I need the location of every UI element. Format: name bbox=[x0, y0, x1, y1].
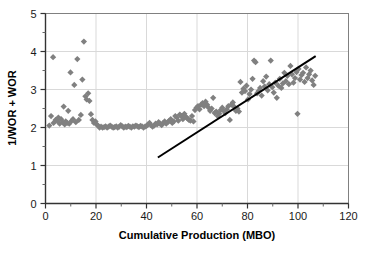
data-point-marker bbox=[249, 76, 255, 82]
data-point-marker bbox=[81, 38, 87, 44]
data-point-marker bbox=[65, 108, 71, 114]
data-point-marker bbox=[303, 64, 309, 70]
data-point-marker bbox=[74, 56, 80, 62]
data-point-marker bbox=[71, 82, 77, 88]
chart-figure: 020406080100120 012345 Cumulative Produc… bbox=[0, 0, 370, 253]
data-point-marker bbox=[61, 103, 67, 109]
y-axis-title: 1/WOR + WOR bbox=[6, 70, 18, 146]
data-point-marker bbox=[227, 117, 233, 123]
data-point-marker bbox=[210, 95, 216, 101]
x-tick-label: 80 bbox=[241, 210, 253, 222]
data-point-marker bbox=[268, 57, 274, 63]
data-point-marker bbox=[271, 89, 277, 95]
scatter-data-points bbox=[46, 38, 318, 130]
data-point-marker bbox=[294, 111, 300, 117]
data-point-marker bbox=[79, 76, 85, 82]
y-tick-label: 0 bbox=[30, 198, 36, 210]
y-tick-label: 3 bbox=[30, 84, 36, 96]
data-point-marker bbox=[274, 95, 280, 101]
data-point-marker bbox=[312, 73, 318, 79]
x-tick-label: 0 bbox=[42, 210, 48, 222]
data-point-marker bbox=[260, 78, 266, 84]
data-point-marker bbox=[263, 73, 269, 79]
y-axis-ticks bbox=[41, 14, 46, 204]
x-tick-label: 60 bbox=[191, 210, 203, 222]
y-axis-tick-labels: 012345 bbox=[30, 8, 36, 210]
x-tick-label: 120 bbox=[339, 210, 357, 222]
x-axis-title: Cumulative Production (MBO) bbox=[119, 229, 276, 241]
x-axis-ticks bbox=[46, 204, 349, 209]
x-tick-label: 20 bbox=[90, 210, 102, 222]
data-point-marker bbox=[237, 79, 243, 85]
y-tick-label: 5 bbox=[30, 8, 36, 20]
data-point-marker bbox=[287, 63, 293, 69]
trend-line-segment bbox=[158, 56, 316, 157]
y-tick-label: 4 bbox=[30, 46, 36, 58]
chart-canvas: 020406080100120 012345 Cumulative Produc… bbox=[0, 0, 370, 253]
trend-line bbox=[158, 56, 316, 157]
y-tick-label: 2 bbox=[30, 122, 36, 134]
x-tick-label: 100 bbox=[289, 210, 307, 222]
x-tick-label: 40 bbox=[140, 210, 152, 222]
data-point-marker bbox=[67, 69, 73, 75]
y-tick-label: 1 bbox=[30, 160, 36, 172]
data-point-marker bbox=[48, 113, 54, 119]
data-point-marker bbox=[50, 54, 56, 60]
data-point-marker bbox=[88, 111, 94, 117]
x-axis-tick-labels: 020406080100120 bbox=[42, 210, 357, 222]
